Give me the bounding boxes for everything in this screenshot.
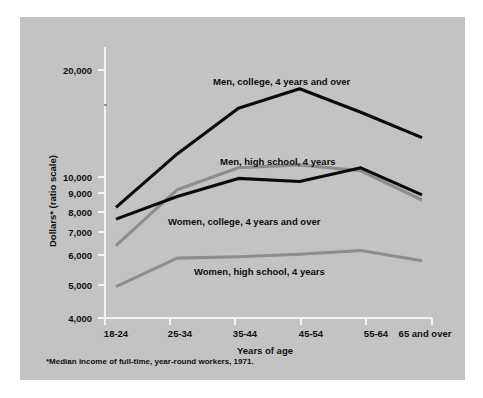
y-tick-label-4000: 4,000 xyxy=(68,313,92,324)
x-tick-label-55-64: 55-64 xyxy=(364,328,389,339)
series-label-men-high-school: Men, high school, 4 years xyxy=(220,156,336,167)
x-tick-marks xyxy=(105,318,432,325)
line-chart: 20,000 10,000 9,000 8,000 7,000 6,000 5,… xyxy=(20,17,465,380)
series-line-women-college xyxy=(116,168,422,219)
chart-figure-panel: 20,000 10,000 9,000 8,000 7,000 6,000 5,… xyxy=(20,17,465,380)
series-label-men-college: Men, college, 4 years and over xyxy=(213,76,351,87)
y-tick-label-9000: 9,000 xyxy=(68,188,92,199)
series-label-women-high-school: Women, high school, 4 years xyxy=(194,266,325,277)
x-tick-label-45-54: 45-54 xyxy=(299,328,324,339)
y-tick-label-8000: 8,000 xyxy=(68,207,92,218)
y-tick-label-10000: 10,000 xyxy=(63,172,92,183)
x-tick-label-65-and-over: 65 and over xyxy=(399,328,452,339)
series-line-men-high-school xyxy=(116,165,422,246)
y-tick-label-5000: 5,000 xyxy=(68,280,92,291)
x-tick-label-35-44: 35-44 xyxy=(233,328,258,339)
x-tick-label-18-24: 18-24 xyxy=(104,328,129,339)
x-axis-title: Years of age xyxy=(237,345,293,356)
y-tick-label-7000: 7,000 xyxy=(68,227,92,238)
y-tick-label-6000: 6,000 xyxy=(68,250,92,261)
y-axis-title: Dollars* (ratio scale) xyxy=(47,155,58,247)
x-tick-label-25-34: 25-34 xyxy=(168,328,193,339)
footnote-text: *Median income of full-time, year-round … xyxy=(46,357,254,366)
series-line-men-college xyxy=(116,89,422,208)
series-label-women-college: Women, college, 4 years and over xyxy=(168,216,321,227)
y-tick-label-20000: 20,000 xyxy=(63,65,92,76)
